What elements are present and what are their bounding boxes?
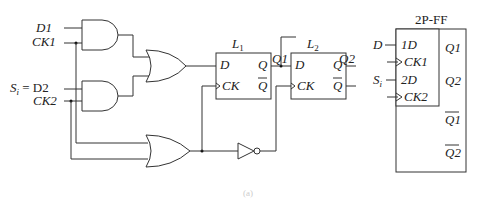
wire-or2-to-l1-ck <box>202 86 216 151</box>
l1-pin-d: D <box>219 57 230 72</box>
or-gate-1 <box>146 50 186 82</box>
ff-pin-ck1: CK1 <box>404 54 428 69</box>
wire-and2-to-or1 <box>118 76 150 96</box>
inverter-bubble <box>254 148 260 154</box>
ff-out-q1bar: Q1 <box>445 112 461 127</box>
circuit-diagram: D1 CK1 Si = D2 CK2 L1 D Q CK Q Q1 L2 D <box>0 0 477 198</box>
latch-l1-label: L1 <box>231 36 244 53</box>
ff-out-q1: Q1 <box>445 40 461 55</box>
l1-out-label-q1: Q1 <box>272 51 288 66</box>
or-gate-2 <box>146 135 190 167</box>
input-label-ck2: CK2 <box>33 93 57 108</box>
l1-pin-ck: CK <box>222 78 241 93</box>
ff-pin-1d: 1D <box>401 37 418 52</box>
ff-out-q2: Q2 <box>445 73 461 88</box>
and-gate-1 <box>82 20 118 50</box>
ff-input-d: D <box>372 37 383 52</box>
ff-title: 2P-FF <box>415 12 448 27</box>
l2-pin-qbar: Q <box>333 78 343 93</box>
ff-pin-ck2: CK2 <box>404 89 428 104</box>
l2-pin-d: D <box>294 57 305 72</box>
l2-pin-ck: CK <box>297 78 316 93</box>
and-gate-2 <box>82 81 118 111</box>
l2-out-label-q2: Q2 <box>339 51 355 66</box>
input-label-ck1: CK1 <box>32 34 56 49</box>
inverter <box>238 143 254 159</box>
l1-pin-q: Q <box>258 57 268 72</box>
ff-out-q2bar: Q2 <box>445 145 461 160</box>
ff-pin-2d: 2D <box>401 72 418 87</box>
latch-l2-label: L2 <box>306 36 319 53</box>
ff-input-si: Si <box>373 72 383 89</box>
l1-pin-qbar: Q <box>258 78 268 93</box>
figure-caption: (a) <box>243 188 253 198</box>
input-label-d1: D1 <box>35 20 52 35</box>
wire-and1-to-or1 <box>118 35 150 57</box>
